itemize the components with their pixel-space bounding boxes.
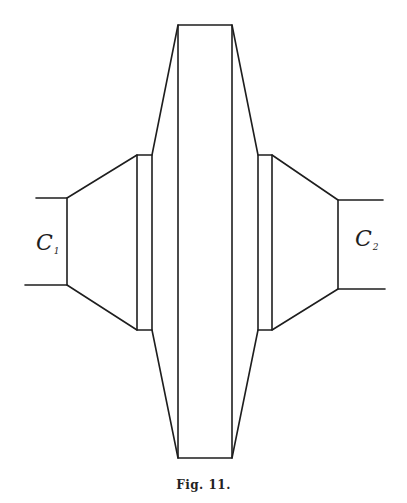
left-hub-step xyxy=(137,155,152,330)
central-disc xyxy=(152,25,258,458)
left-hub xyxy=(67,155,152,330)
label-c2: C2 xyxy=(355,226,379,252)
shaft-coupling-diagram: C1 C2 xyxy=(0,0,407,503)
right-hub-step xyxy=(258,155,272,330)
right-hub-cone xyxy=(272,155,338,330)
disc-outline xyxy=(152,25,258,458)
figure-caption: Fig. 11. xyxy=(0,478,407,492)
left-hub-cone xyxy=(67,155,137,330)
right-hub xyxy=(258,155,338,330)
label-c1: C1 xyxy=(36,230,60,256)
